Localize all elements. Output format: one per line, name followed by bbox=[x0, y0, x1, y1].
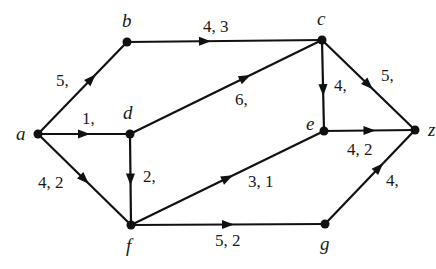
node-label-d: d bbox=[123, 102, 133, 123]
edge-label-c-z: 5, bbox=[381, 66, 394, 85]
node-label-g: g bbox=[320, 233, 330, 254]
edge-label-b-c: 4, 3 bbox=[203, 17, 229, 36]
node-d bbox=[126, 130, 135, 139]
node-z bbox=[411, 126, 420, 135]
node-label-f: f bbox=[126, 235, 134, 256]
arrow-icon bbox=[78, 130, 90, 139]
edge-label-a-f: 4, 2 bbox=[38, 173, 64, 192]
node-g bbox=[321, 220, 330, 229]
edge-label-e-z: 4, 2 bbox=[347, 140, 373, 159]
arrow-icon bbox=[222, 220, 234, 229]
arrow-icon bbox=[199, 37, 211, 46]
edge-label-f-e: 3, 1 bbox=[248, 172, 274, 191]
node-label-c: c bbox=[317, 8, 326, 29]
node-label-b: b bbox=[122, 10, 132, 31]
edges-layer bbox=[38, 37, 415, 229]
node-e bbox=[320, 127, 329, 136]
nodes-layer bbox=[34, 36, 420, 230]
edge-label-f-g: 5, 2 bbox=[215, 231, 241, 250]
arrow-icon bbox=[220, 171, 235, 184]
arrow-icon bbox=[238, 71, 253, 84]
node-c bbox=[318, 36, 327, 45]
node-f bbox=[127, 221, 136, 230]
node-a bbox=[34, 130, 43, 139]
edge-label-a-d: 1, bbox=[82, 109, 95, 128]
edge-label-d-f: 2, bbox=[143, 167, 156, 186]
node-label-e: e bbox=[306, 113, 314, 134]
edge-label-c-e: 4, bbox=[334, 76, 347, 95]
arrow-icon bbox=[363, 126, 375, 135]
node-label-z: z bbox=[427, 119, 436, 140]
edge-label-g-z: 4, bbox=[386, 171, 399, 190]
flow-network-diagram: 5,1,4, 24, 36,2,4,5,4, 23, 15, 24,abcdef… bbox=[0, 0, 436, 269]
arrow-icon bbox=[318, 84, 327, 96]
edge-label-a-b: 5, bbox=[56, 71, 69, 90]
edge-b-c bbox=[127, 40, 322, 42]
node-b bbox=[123, 38, 132, 47]
node-label-a: a bbox=[16, 123, 26, 144]
edge-d-c bbox=[130, 40, 322, 134]
arrow-icon bbox=[126, 173, 135, 185]
edge-label-d-c: 6, bbox=[235, 90, 248, 109]
